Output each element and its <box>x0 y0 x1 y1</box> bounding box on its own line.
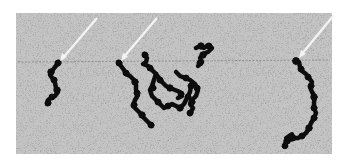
micrograph-image <box>0 0 350 164</box>
micrograph-figure <box>0 0 350 164</box>
field-grain-dark <box>16 13 332 154</box>
